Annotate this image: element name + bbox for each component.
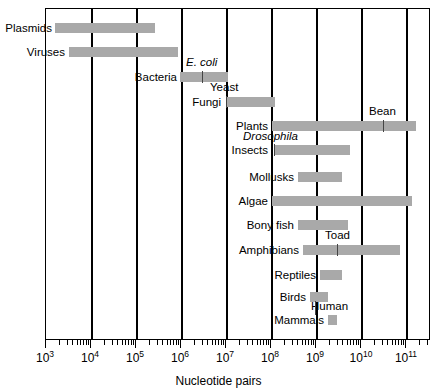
tick-minor [403,340,404,345]
row-label-birds: Birds [0,290,309,304]
tick-minor [387,340,388,345]
tick-minor [133,340,134,345]
tick-minor [419,340,420,345]
tick-minor [337,340,338,345]
tick-minor [374,340,375,345]
tick-minor [353,340,354,345]
tick-minor [350,340,351,345]
row-mammals: Mammals [0,313,437,327]
tick-minor [268,340,269,345]
tick-minor [86,340,87,345]
tick-minor [382,340,383,345]
row-label-bony-fish: Bony fish [0,218,297,232]
tick-label-1e6: 106 [171,352,189,365]
bar-insects [274,145,350,155]
bar-fungi [226,97,275,107]
tick-minor [157,340,158,345]
tick-label-1e8: 108 [261,352,279,365]
row-label-algae: Algae [0,194,271,208]
tick-minor [297,340,298,345]
row-bony-fish: Bony fish [0,218,437,232]
row-label-plasmids: Plasmids [0,21,55,35]
tick-minor [122,340,123,345]
tick-minor [162,340,163,345]
tick-minor [292,340,293,345]
tick-minor [167,340,168,345]
bar-amphibians [303,245,400,255]
tick-minor [218,340,219,345]
tick-minor [83,340,84,345]
row-label-viruses: Viruses [0,45,68,59]
marker-tick-drosophila [274,144,275,156]
marker-tick-bean [383,120,384,132]
bar-mammals [328,315,337,325]
row-label-reptiles: Reptiles [0,268,319,282]
tick-minor [194,340,195,345]
tick-minor [104,340,105,345]
row-label-amphibians: Amphibians [0,243,302,257]
tick-label-1e3: 103 [36,352,54,365]
tick-minor [257,340,258,345]
tick-minor [284,340,285,345]
row-plants: Plants [0,119,437,133]
bar-viruses [69,47,178,57]
row-birds: Birds [0,290,437,304]
tick-minor [178,340,179,345]
bar-reptiles [320,270,342,280]
tick-major-1e8 [270,340,271,348]
tick-label-1e4: 104 [81,352,99,365]
tick-major-1e6 [180,340,181,348]
tick-label-1e11: 1011 [395,352,417,365]
tick-minor [356,340,357,345]
marker-label-toad: Toad [325,229,350,241]
tick-minor [223,340,224,345]
tick-minor [117,340,118,345]
bar-mollusks [298,172,342,182]
tick-minor [342,340,343,345]
tick-minor [398,340,399,345]
row-label-bacteria: Bacteria [0,70,180,84]
tick-minor [212,340,213,345]
tick-minor [395,340,396,345]
tick-major-1e7 [225,340,226,348]
tick-minor [176,340,177,345]
bar-algae [272,196,412,206]
tick-minor [329,340,330,345]
tick-minor [67,340,68,345]
row-viruses: Viruses [0,45,437,59]
row-label-fungi: Fungi [0,95,224,109]
marker-label-human: Human [311,300,348,312]
row-plasmids: Plasmids [0,21,437,35]
tick-label-1e5: 105 [126,352,144,365]
tick-minor [247,340,248,345]
genome-size-chart: Plasmids Viruses E. coli Bacteria Yeast … [0,0,437,392]
tick-minor [125,340,126,345]
tick-minor [347,340,348,345]
tick-minor [302,340,303,345]
tick-minor [215,340,216,345]
row-label-plants: Plants [0,119,271,133]
tick-major-1e11 [405,340,406,348]
row-algae: Algae [0,194,437,208]
tick-minor [305,340,306,345]
tick-minor [401,340,402,345]
tick-minor [149,340,150,345]
tick-label-1e7: 107 [216,352,234,365]
bar-plasmids [55,23,155,33]
tick-minor [266,340,267,345]
tick-minor [263,340,264,345]
tick-minor [260,340,261,345]
tick-minor [72,340,73,345]
row-label-insects: Insects [0,143,271,157]
tick-minor [80,340,81,345]
tick-label-1e10: 1010 [350,352,373,365]
tick-minor [77,340,78,345]
marker-label-yeast: Yeast [210,81,238,93]
row-reptiles: Reptiles [0,268,437,282]
tick-minor [170,340,171,345]
tick-minor [392,340,393,345]
tick-minor [239,340,240,345]
tick-minor [128,340,129,345]
marker-label-bean: Bean [369,105,396,117]
tick-minor [202,340,203,345]
